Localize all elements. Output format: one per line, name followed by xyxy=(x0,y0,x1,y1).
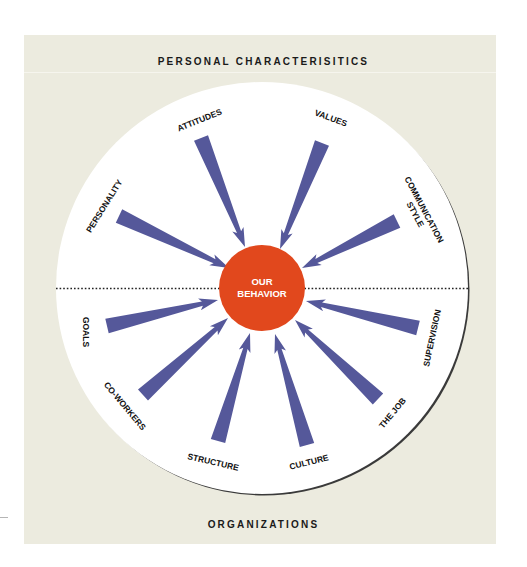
arrow-structure xyxy=(211,333,251,443)
arrow-communication-style xyxy=(302,214,400,268)
label-text: GOALS xyxy=(81,317,91,347)
arrow-attitudes xyxy=(194,135,245,247)
arrow-supervision xyxy=(306,300,420,336)
center-line-2: BEHAVIOR xyxy=(237,288,286,300)
label-goals: GOALS xyxy=(81,317,91,347)
center-line-1: OUR xyxy=(251,276,272,288)
arrow-values xyxy=(280,140,329,249)
center-our-behavior: OUR BEHAVIOR xyxy=(219,245,305,331)
arrow-culture xyxy=(275,334,315,447)
arrow-co-workers xyxy=(138,318,228,401)
arrow-goals xyxy=(105,299,218,334)
arrow-personality xyxy=(116,209,229,268)
arrow-the-job xyxy=(295,320,383,404)
